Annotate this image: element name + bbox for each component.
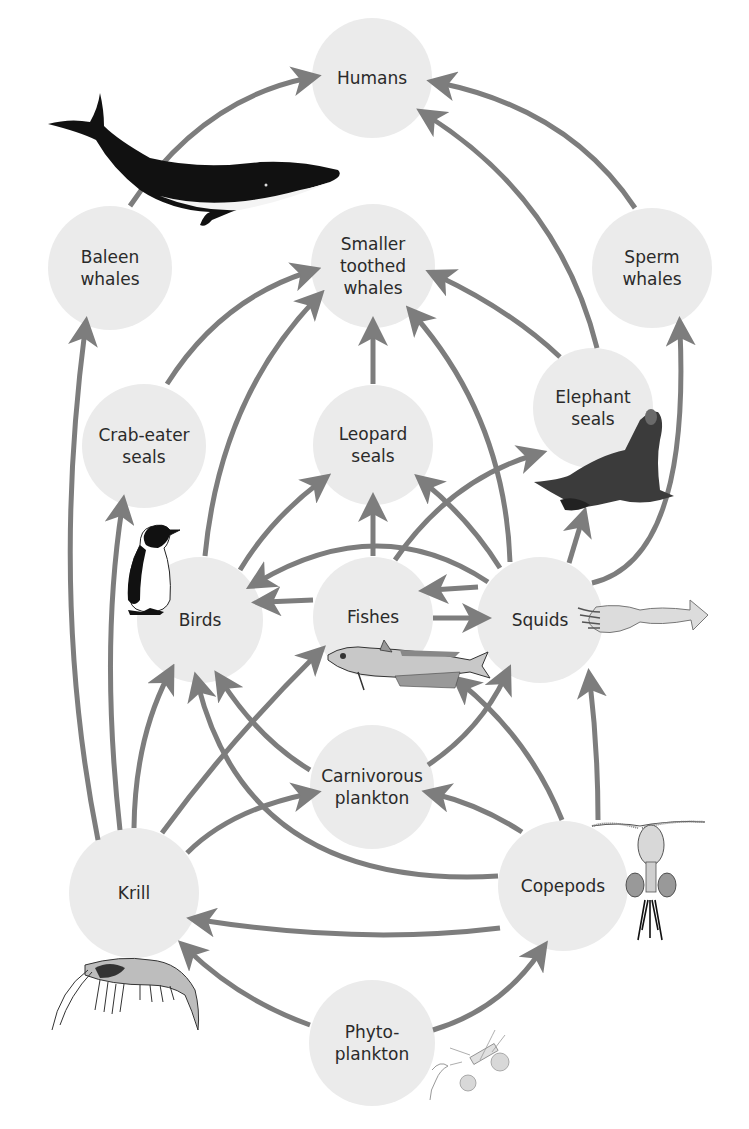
node-label: seals: [122, 447, 165, 467]
node-label: plankton: [335, 1044, 409, 1064]
node-label: Copepods: [521, 876, 606, 896]
node-label: seals: [571, 409, 614, 429]
node-circle: [48, 206, 172, 330]
node-phytoplankton: Phyto-plankton: [309, 980, 435, 1106]
arrow-fishes-to-birds: [265, 600, 313, 602]
phytoplankton-illustration: [430, 1030, 509, 1100]
arrow-krill-to-baleen-whales: [70, 330, 98, 840]
node-sperm-whales: Spermwhales: [592, 208, 712, 328]
arrow-copepods-to-squids: [590, 682, 598, 820]
node-label: Baleen: [81, 247, 140, 267]
node-label: Phyto-: [345, 1022, 400, 1042]
node-label: Humans: [337, 68, 407, 88]
node-circle: [309, 980, 435, 1106]
node-label: Carnivorous: [321, 766, 423, 786]
food-web-diagram: HumansBaleenwhalesSmallertoothedwhalesSp…: [0, 0, 749, 1129]
arrow-copepods-to-krill: [200, 920, 500, 935]
node-label: Crab-eater: [98, 425, 189, 445]
node-carnivorous-plankton: Carnivorousplankton: [310, 725, 434, 849]
arrow-crab-eater-seals-to-smaller-toothed-whales: [167, 272, 308, 384]
node-humans: Humans: [312, 18, 432, 138]
node-leopard-seals: Leopardseals: [313, 385, 433, 505]
node-squids: Squids: [477, 557, 603, 683]
node-label: whales: [622, 269, 681, 289]
arrow-birds-to-smaller-toothed-whales: [205, 300, 315, 556]
whale-illustration: [48, 93, 340, 226]
arrow-phytoplankton-to-krill: [188, 950, 310, 1025]
arrow-krill-to-fishes: [162, 655, 316, 833]
node-circle: [82, 384, 206, 508]
arrow-squids-to-elephant-seals: [569, 520, 582, 563]
node-label: toothed: [340, 256, 406, 276]
node-circle: [310, 725, 434, 849]
node-label: Leopard: [339, 424, 408, 444]
arrow-copepods-to-fishes: [462, 684, 562, 820]
node-label: Birds: [179, 610, 222, 630]
node-label: Squids: [512, 610, 569, 630]
arrow-elephant-seals-to-humans: [428, 116, 597, 348]
arrow-krill-to-carnivorous-plankton: [187, 794, 308, 853]
node-label: Krill: [118, 883, 150, 903]
krill-illustration: [52, 958, 199, 1030]
node-baleen-whales: Baleenwhales: [48, 206, 172, 330]
arrow-krill-to-birds: [134, 676, 168, 828]
node-label: Smaller: [341, 234, 406, 254]
node-smaller-toothed-whales: Smallertoothedwhales: [311, 204, 435, 328]
arrow-elephant-seals-to-smaller-toothed-whales: [438, 276, 560, 357]
node-label: Sperm: [624, 247, 679, 267]
node-label: whales: [343, 278, 402, 298]
node-label: seals: [351, 446, 394, 466]
arrow-phytoplankton-to-copepods: [433, 952, 540, 1030]
arrow-carnivorous-plankton-to-birds: [222, 682, 310, 770]
node-label: whales: [80, 269, 139, 289]
node-circle: [592, 208, 712, 328]
arrow-squids-to-fishes: [432, 587, 478, 590]
node-label: Elephant: [555, 387, 631, 407]
node-crab-eater-seals: Crab-eaterseals: [82, 384, 206, 508]
node-label: Fishes: [347, 607, 399, 627]
node-label: plankton: [335, 788, 409, 808]
node-copepods: Copepods: [498, 821, 628, 951]
arrow-krill-to-crab-eater-seals: [110, 508, 122, 830]
node-circle: [313, 385, 433, 505]
arrow-copepods-to-carnivorous-plankton: [435, 794, 522, 832]
node-krill: Krill: [69, 828, 199, 958]
